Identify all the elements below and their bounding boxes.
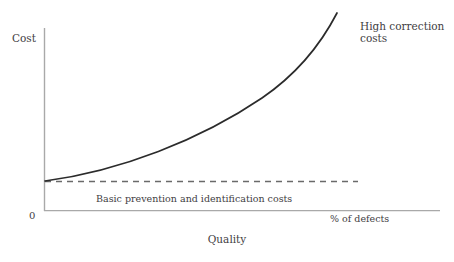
origin-label: 0 (29, 210, 35, 222)
baseline-cost-label: Basic prevention and identification cost… (96, 194, 292, 205)
cost-curve (45, 13, 337, 181)
x-axis-title: Quality (0, 233, 454, 245)
curve-annotation: High correction costs (360, 20, 444, 44)
curve-annotation-line1: High correction (360, 20, 444, 32)
curve-annotation-line2: costs (360, 32, 444, 44)
y-axis-title: Cost (12, 32, 36, 44)
cost-of-quality-chart: Cost 0 Basic prevention and identificati… (0, 0, 454, 262)
x-axis-right-label: % of defects (330, 214, 389, 225)
